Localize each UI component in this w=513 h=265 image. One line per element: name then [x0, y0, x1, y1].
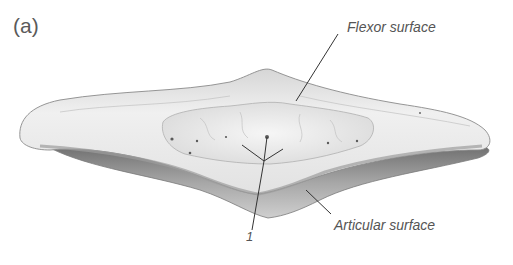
- articular-surface-label: Articular surface: [334, 218, 435, 232]
- flexor-surface-label: Flexor surface: [347, 20, 436, 34]
- bone-illustration: [0, 0, 513, 265]
- marker-1-label: 1: [246, 230, 253, 243]
- figure-canvas: (a): [0, 0, 513, 265]
